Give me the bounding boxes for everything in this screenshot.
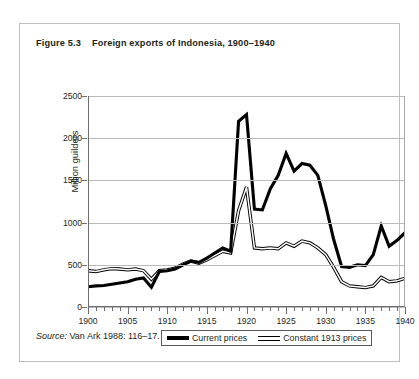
x-tick-1929 xyxy=(318,307,319,311)
y-tick-mark-2500 xyxy=(82,96,87,97)
x-tick-1907 xyxy=(143,307,144,311)
x-tick-1903 xyxy=(112,307,113,311)
x-tick-1910 xyxy=(167,307,168,314)
x-tick-1927 xyxy=(302,307,303,311)
x-tick-1901 xyxy=(96,307,97,311)
y-tick-mark-0 xyxy=(82,307,87,308)
x-tick-label-1925: 1925 xyxy=(277,316,296,326)
y-tick-mark-2000 xyxy=(82,138,87,139)
y-tick-mark-500 xyxy=(82,265,87,266)
x-tick-1931 xyxy=(334,307,335,311)
plot-area xyxy=(88,96,405,307)
x-tick-label-1940: 1940 xyxy=(395,316,414,326)
x-tick-1900 xyxy=(88,307,89,314)
x-tick-1921 xyxy=(254,307,255,311)
source-text: Van Ark 1988: 116–17. xyxy=(67,331,160,341)
x-tick-1928 xyxy=(310,307,311,311)
x-tick-label-1905: 1905 xyxy=(118,316,137,326)
x-tick-1902 xyxy=(104,307,105,311)
x-tick-1939 xyxy=(397,307,398,311)
plot-frame xyxy=(88,96,405,307)
x-tick-label-1930: 1930 xyxy=(316,316,335,326)
x-tick-1938 xyxy=(389,307,390,311)
chart-legend: Current prices Constant 1913 prices xyxy=(161,330,372,346)
x-tick-1940 xyxy=(405,307,406,314)
x-tick-1935 xyxy=(365,307,366,314)
x-tick-label-1935: 1935 xyxy=(356,316,375,326)
x-tick-1936 xyxy=(373,307,374,311)
x-tick-1926 xyxy=(294,307,295,311)
x-tick-1913 xyxy=(191,307,192,311)
legend-label-current-prices: Current prices xyxy=(192,333,247,343)
legend-swatch-current-prices-icon xyxy=(167,336,189,340)
x-tick-1915 xyxy=(207,307,208,314)
y-axis-tick-marks xyxy=(20,96,88,307)
x-tick-1932 xyxy=(342,307,343,311)
y-tick-mark-1500 xyxy=(82,180,87,181)
legend-swatch-constant-prices-icon xyxy=(258,336,280,341)
figure-container: Figure 5.3Foreign exports of Indonesia, … xyxy=(19,23,400,362)
y-tick-mark-1000 xyxy=(82,223,87,224)
legend-item-current-prices: Current prices xyxy=(167,333,247,343)
x-tick-1916 xyxy=(215,307,216,311)
x-tick-1917 xyxy=(223,307,224,311)
source-label: Source: xyxy=(36,331,67,341)
x-tick-1920 xyxy=(247,307,248,314)
x-tick-1918 xyxy=(231,307,232,311)
x-tick-1914 xyxy=(199,307,200,311)
x-tick-label-1920: 1920 xyxy=(237,316,256,326)
x-tick-1925 xyxy=(286,307,287,314)
figure-title-text: Foreign exports of Indonesia, 1900–1940 xyxy=(92,38,275,48)
figure-number: Figure 5.3 xyxy=(36,38,81,48)
x-tick-1905 xyxy=(128,307,129,314)
x-tick-1937 xyxy=(381,307,382,311)
x-tick-1924 xyxy=(278,307,279,311)
x-tick-1919 xyxy=(239,307,240,311)
x-tick-1934 xyxy=(357,307,358,311)
x-tick-1922 xyxy=(262,307,263,311)
x-tick-1909 xyxy=(159,307,160,311)
x-tick-1906 xyxy=(136,307,137,311)
x-tick-1908 xyxy=(151,307,152,311)
x-tick-1904 xyxy=(120,307,121,311)
x-tick-label-1900: 1900 xyxy=(78,316,97,326)
x-tick-1930 xyxy=(326,307,327,314)
legend-label-constant-prices: Constant 1913 prices xyxy=(283,333,366,343)
x-tick-label-1915: 1915 xyxy=(197,316,216,326)
x-tick-1933 xyxy=(350,307,351,311)
source-note: Source: Van Ark 1988: 116–17. xyxy=(36,331,160,341)
x-tick-1923 xyxy=(270,307,271,311)
x-tick-1911 xyxy=(175,307,176,311)
figure-title: Figure 5.3Foreign exports of Indonesia, … xyxy=(36,38,275,48)
x-axis-tick-marks xyxy=(88,307,406,316)
x-tick-1912 xyxy=(183,307,184,311)
legend-item-constant-prices: Constant 1913 prices xyxy=(258,333,366,343)
x-tick-label-1910: 1910 xyxy=(158,316,177,326)
x-axis-tick-labels: 190019051910191519201925193019351940 xyxy=(20,316,419,330)
